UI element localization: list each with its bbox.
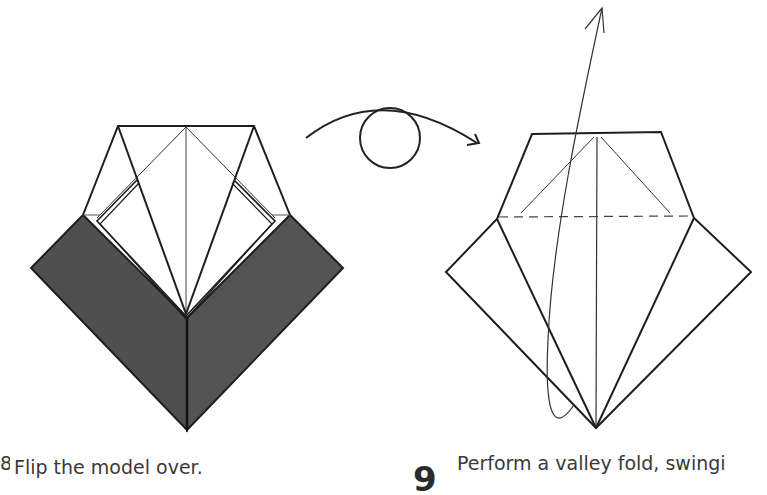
step8-caption: 8Flip the model over.: [0, 452, 203, 478]
step8-model-figure: [31, 126, 343, 430]
step8-number: 8: [0, 452, 10, 474]
step9-number: 9: [413, 464, 437, 494]
step9-model-figure: [446, 132, 751, 428]
step9-text: Perform a valley fold, swingi: [457, 452, 726, 474]
turn-over-arrow-icon: [306, 108, 479, 168]
step8-text: Flip the model over.: [14, 456, 203, 478]
